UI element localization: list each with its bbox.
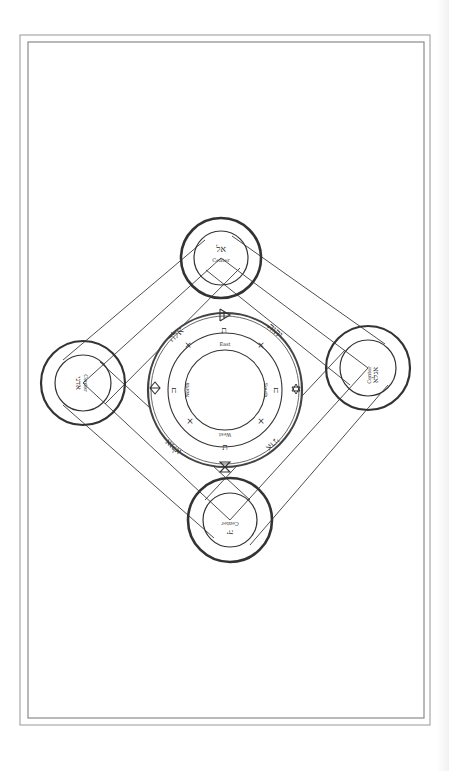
direction-west: West — [219, 432, 231, 438]
hebrew-name: אל — [215, 244, 226, 254]
hebrew-name: יה — [227, 528, 234, 537]
center-label: Center — [366, 366, 372, 384]
direction-south: South — [263, 383, 269, 399]
seal-diagram: אל Center אדני Center אגלא Center יה Cen… — [0, 0, 449, 771]
circle-left: אדני Center — [41, 341, 125, 425]
cross-mark: × — [184, 340, 192, 350]
center-label: Center — [83, 374, 89, 392]
middle-letter-left: ח — [171, 385, 176, 395]
center-label: Center — [212, 257, 230, 263]
central-seal: East South West North ת ח ת ח × × × × אל… — [148, 309, 302, 472]
hebrew-name: אדני — [74, 376, 83, 390]
hebrew-name: אגלא — [371, 367, 380, 383]
cross-mark: × — [186, 416, 194, 426]
direction-east: East — [219, 341, 230, 347]
circle-top: אל Center — [181, 218, 261, 298]
cross-mark: × — [257, 340, 265, 350]
direction-north: North — [184, 382, 190, 398]
center-label: Center — [221, 521, 239, 527]
middle-letter-right: ח — [273, 385, 278, 395]
circle-right: אגלא Center — [326, 326, 410, 410]
middle-letter-top: ת — [221, 325, 227, 335]
middle-letter-bottom: ת — [222, 442, 228, 452]
cross-mark: × — [257, 416, 265, 426]
